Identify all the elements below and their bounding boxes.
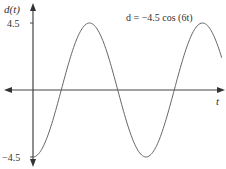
x-axis-left-arrow-icon xyxy=(4,87,12,93)
x-axis-label: t xyxy=(216,95,220,107)
cosine-chart: d(t) 4.5 −4.5 t d = −4.5 cos (6t) xyxy=(0,0,226,169)
equation-annotation: d = −4.5 cos (6t) xyxy=(126,12,193,24)
y-axis-label: d(t) xyxy=(4,3,20,16)
y-tick-label-top: 4.5 xyxy=(7,18,20,29)
y-tick-label-bottom: −4.5 xyxy=(2,152,20,163)
x-axis-right-arrow-icon xyxy=(217,87,225,93)
y-axis-up-arrow-icon xyxy=(30,3,36,11)
y-axis-down-arrow-icon xyxy=(30,159,36,167)
